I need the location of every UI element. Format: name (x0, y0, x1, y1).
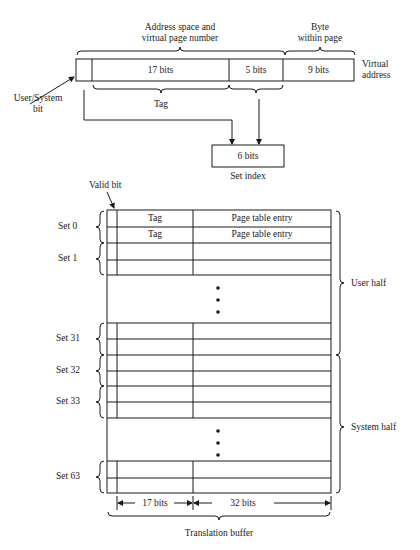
row-1-pte: Page table entry (193, 229, 331, 240)
label-line: address (362, 70, 391, 81)
system-half-label: System half (351, 422, 396, 433)
user-system-bit-label: User/System bit (14, 93, 63, 115)
tag-width-label: 17 bits (142, 498, 168, 509)
address-space-header: Address space and virtual page number (142, 22, 219, 44)
set-1-label: Set 1 (58, 253, 77, 264)
valid-bit-label: Valid bit (89, 180, 121, 191)
brace-address-space (77, 47, 285, 55)
translation-buffer-box (107, 210, 331, 493)
header-line: within page (298, 33, 343, 44)
byte-within-page-header: Byte within page (298, 22, 343, 44)
set-63-label: Set 63 (56, 471, 80, 482)
header-line: Address space and (142, 22, 219, 33)
label-line: User/System (14, 93, 63, 104)
set-index-bits: 6 bits (212, 151, 284, 162)
user-half-label: User half (351, 278, 386, 289)
brace-byte-within-page (285, 47, 355, 55)
tag-label: Tag (154, 99, 168, 110)
set-32-label: Set 32 (56, 365, 80, 376)
field-5-bits: 5 bits (229, 65, 283, 76)
set-0-label: Set 0 (58, 221, 77, 232)
pte-width-label: 32 bits (230, 498, 256, 509)
set-33-label: Set 33 (56, 396, 80, 407)
set-31-label: Set 31 (56, 333, 80, 344)
diagram-lines (0, 0, 420, 550)
label-line: bit (14, 104, 63, 115)
row-0-pte: Page table entry (193, 213, 331, 224)
brace-system-half (336, 355, 344, 493)
row-1-tag: Tag (117, 229, 193, 240)
label-line: Virtual (362, 59, 391, 70)
virtual-address-label: Virtual address (362, 59, 391, 81)
header-line: virtual page number (142, 33, 219, 44)
brace-5bits (229, 85, 283, 93)
field-17-bits: 17 bits (92, 65, 229, 76)
row-0-tag: Tag (117, 213, 193, 224)
set-index-caption: Set index (230, 171, 266, 182)
header-line: Byte (298, 22, 343, 33)
brace-translation-buffer (108, 512, 330, 520)
brace-tag (93, 85, 229, 93)
brace-user-half (336, 211, 344, 355)
field-9-bits: 9 bits (283, 65, 354, 76)
translation-buffer-caption: Translation buffer (185, 528, 253, 539)
